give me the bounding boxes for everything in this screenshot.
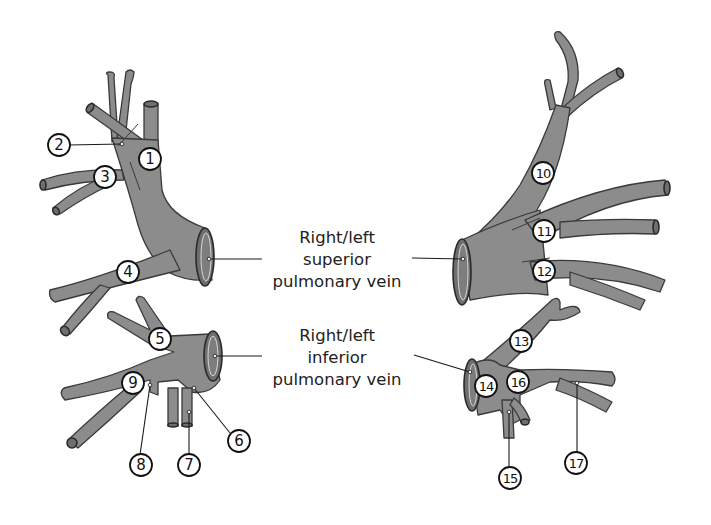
marker-7: 7 — [178, 454, 200, 476]
pulmonary-veins-diagram: Right/left superior pulmonary vein Right… — [0, 0, 711, 525]
marker-13: 13 — [510, 330, 532, 352]
marker-14: 14 — [475, 375, 497, 397]
marker-2: 2 — [48, 134, 70, 156]
svg-text:16: 16 — [511, 375, 526, 390]
right-inferior-pulmonary-vein-illustration — [61, 296, 222, 448]
svg-text:17: 17 — [569, 456, 584, 471]
inferior-caption-line1: Right/left — [299, 326, 375, 345]
marker-15: 15 — [499, 467, 521, 489]
svg-text:2: 2 — [54, 136, 64, 154]
marker-5: 5 — [149, 328, 171, 350]
svg-text:9: 9 — [128, 374, 138, 392]
marker-10: 10 — [532, 162, 554, 184]
marker-12: 12 — [533, 260, 555, 282]
svg-text:13: 13 — [514, 334, 529, 349]
svg-text:10: 10 — [536, 166, 551, 181]
superior-caption-line3: pulmonary vein — [272, 272, 401, 291]
marker-16: 16 — [507, 371, 529, 393]
svg-text:14: 14 — [479, 379, 494, 394]
marker-3: 3 — [94, 166, 116, 188]
svg-text:3: 3 — [100, 168, 110, 186]
superior-caption-line1: Right/left — [299, 228, 375, 247]
marker-11: 11 — [533, 220, 555, 242]
svg-text:6: 6 — [234, 432, 244, 450]
svg-text:11: 11 — [537, 224, 552, 239]
svg-text:4: 4 — [123, 263, 133, 281]
svg-text:5: 5 — [155, 330, 165, 348]
svg-text:1: 1 — [145, 150, 155, 168]
inferior-caption-line3: pulmonary vein — [272, 370, 401, 389]
superior-vein-caption: Right/left superior pulmonary vein — [272, 228, 401, 291]
left-inferior-pulmonary-vein-illustration — [464, 298, 615, 438]
marker-8: 8 — [130, 454, 152, 476]
svg-text:12: 12 — [537, 264, 552, 279]
svg-text:8: 8 — [136, 456, 146, 474]
marker-4: 4 — [117, 261, 139, 283]
marker-17: 17 — [565, 452, 587, 474]
marker-9: 9 — [122, 372, 144, 394]
marker-1: 1 — [139, 148, 161, 170]
left-superior-pulmonary-vein-illustration — [453, 32, 670, 310]
svg-text:7: 7 — [184, 456, 194, 474]
right-superior-pulmonary-vein-illustration — [40, 70, 214, 337]
inferior-caption-line2: inferior — [307, 348, 366, 367]
superior-caption-line2: superior — [303, 250, 371, 269]
inferior-vein-caption: Right/left inferior pulmonary vein — [272, 326, 401, 389]
svg-text:15: 15 — [503, 471, 518, 486]
marker-6: 6 — [228, 430, 250, 452]
